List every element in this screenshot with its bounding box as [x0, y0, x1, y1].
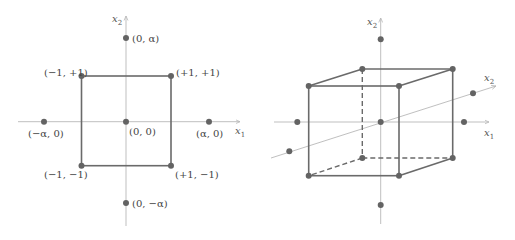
- cube-front-face: [309, 86, 399, 176]
- center-point: [123, 119, 129, 125]
- point-label-top-right: (+1, +1): [176, 67, 220, 78]
- cube-vertex: [306, 83, 312, 89]
- cube-top-left-depth-edge: [309, 69, 363, 86]
- factorial-point-bottom-right: [168, 163, 174, 169]
- cube-vertex: [396, 83, 402, 89]
- axial-point-left: [41, 119, 47, 125]
- cube-vertex: [359, 66, 365, 72]
- depth-axis-label-3d: x2: [484, 72, 494, 86]
- axial-point-top: [123, 35, 129, 41]
- cube-vertex: [450, 66, 456, 72]
- axial-point-left-3d: [294, 119, 300, 125]
- cube-vertex: [306, 173, 312, 179]
- cube-hidden-edge-depth: [309, 158, 363, 176]
- cube-top-right-depth-edge: [399, 69, 453, 86]
- axial-point-bottom-3d: [378, 202, 384, 208]
- point-label-bottom-right: (+1, −1): [175, 169, 219, 180]
- axial-point-right-3d: [461, 119, 467, 125]
- center-point-3d: [378, 119, 384, 125]
- cube-bottom-right-depth-edge: [399, 158, 453, 176]
- point-label-top-left: (−1, +1): [44, 67, 88, 78]
- x1-axis-label-3d: x1: [484, 127, 494, 141]
- x2-axis-label: x2: [112, 13, 122, 27]
- point-label-center: (0, 0): [129, 126, 156, 137]
- two-factor-design-diagram: x1 x2 (0, α) (−1, +1) (+1, +1) (−α, 0) (…: [18, 13, 245, 226]
- point-label-right: (α, 0): [196, 128, 223, 139]
- three-factor-design-diagram: x1 x2 x2: [271, 16, 496, 224]
- cube-vertex: [396, 173, 402, 179]
- point-label-top: (0, α): [132, 33, 159, 44]
- cube-vertex: [450, 155, 456, 161]
- x1-axis-label: x1: [235, 125, 245, 139]
- axial-point-front-3d: [286, 148, 292, 154]
- point-label-left: (−α, 0): [28, 128, 64, 139]
- point-label-bottom: (0, −α): [132, 198, 168, 209]
- axial-point-back-3d: [470, 90, 476, 96]
- x2-axis-label-3d: x2: [367, 16, 377, 30]
- factorial-point-top-right: [168, 73, 174, 79]
- point-label-bottom-left: (−1, −1): [44, 169, 88, 180]
- axial-point-top-3d: [378, 36, 384, 42]
- axial-point-right: [206, 119, 212, 125]
- axial-point-bottom: [123, 200, 129, 206]
- central-composite-design-figure: x1 x2 (0, α) (−1, +1) (+1, +1) (−α, 0) (…: [0, 0, 515, 240]
- cube-vertex: [359, 155, 365, 161]
- factorial-point-bottom-left: [79, 163, 85, 169]
